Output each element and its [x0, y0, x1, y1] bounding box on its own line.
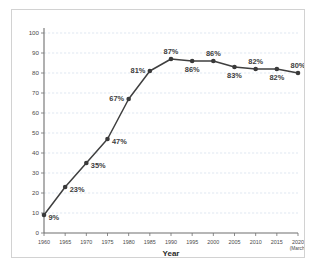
data-point-label: 67%: [109, 94, 124, 103]
data-point-marker: [232, 65, 237, 70]
chart-figure-panel: 0102030405060708090100196019651970197519…: [11, 9, 305, 258]
x-axis-tick-label: 2020: [292, 239, 304, 245]
data-point-marker: [105, 137, 110, 142]
data-point-label: 86%: [185, 65, 200, 74]
x-axis-tick-label: 1995: [186, 239, 198, 245]
x-axis-tick-sublabel: (March): [290, 246, 304, 251]
x-axis-tick-label: 1985: [144, 239, 156, 245]
y-axis-tick-label: 60: [32, 109, 39, 116]
data-point-label: 9%: [49, 213, 60, 222]
data-point-marker: [63, 185, 68, 190]
x-axis-tick-label: 2000: [207, 239, 219, 245]
y-axis-tick-label: 10: [32, 209, 39, 216]
data-point-marker: [169, 57, 174, 62]
y-axis-tick-label: 100: [29, 29, 40, 36]
y-axis-tick-label: 0: [36, 229, 40, 236]
data-point-label: 87%: [164, 47, 179, 56]
y-axis-tick-label: 50: [32, 129, 39, 136]
y-axis-tick-label: 80: [32, 69, 39, 76]
x-axis-tick-label: 2015: [271, 239, 283, 245]
x-axis-tick-label: 2005: [229, 239, 241, 245]
data-point-label: 23%: [70, 185, 85, 194]
data-point-label: 80%: [291, 61, 304, 70]
data-point-marker: [211, 59, 216, 64]
data-point-label: 83%: [227, 71, 242, 80]
x-axis-title: Year: [163, 249, 180, 257]
data-point-marker: [84, 161, 89, 166]
y-axis-tick-label: 70: [32, 89, 39, 96]
data-point-label: 35%: [91, 161, 106, 170]
data-point-marker: [275, 67, 280, 72]
x-axis-tick-label: 2010: [250, 239, 262, 245]
x-axis-tick-label: 1970: [80, 239, 92, 245]
y-axis-tick-label: 30: [32, 169, 39, 176]
data-point-label: 82%: [248, 57, 263, 66]
x-axis-tick-label: 1960: [38, 239, 50, 245]
chart-plot-area: 0102030405060708090100196019651970197519…: [12, 10, 304, 257]
data-point-marker: [253, 67, 258, 72]
y-axis-tick-label: 90: [32, 49, 39, 56]
data-point-marker: [190, 59, 195, 64]
data-point-marker: [42, 213, 47, 218]
x-axis-tick-label: 1965: [59, 239, 71, 245]
x-axis-tick-label: 1990: [165, 239, 177, 245]
x-axis-tick-label: 1975: [102, 239, 114, 245]
data-point-label: 47%: [112, 137, 127, 146]
data-point-label: 81%: [131, 66, 146, 75]
data-point-marker: [296, 71, 301, 76]
x-axis-tick-label: 1980: [123, 239, 135, 245]
data-point-marker: [126, 97, 131, 102]
data-point-label: 86%: [206, 49, 221, 58]
y-axis-tick-label: 40: [32, 149, 39, 156]
y-axis-tick-label: 20: [32, 189, 39, 196]
data-point-label: 82%: [269, 73, 284, 82]
line-chart: 0102030405060708090100196019651970197519…: [12, 10, 304, 257]
data-point-marker: [148, 69, 153, 74]
